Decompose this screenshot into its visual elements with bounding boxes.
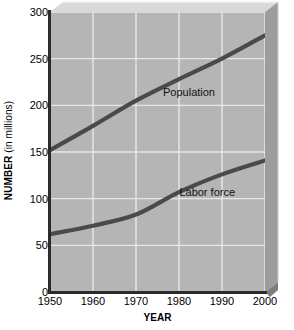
x-axis-ticks: 195019601970198019902000	[0, 0, 294, 330]
y-axis-title-bold: NUMBER	[4, 155, 15, 200]
y-axis-title-wrap: NUMBER (in millions)	[0, 0, 18, 300]
x-axis-title: YEAR	[50, 312, 265, 323]
x-tick-label-1990: 1990	[199, 296, 245, 307]
x-tick-label-1950: 1950	[27, 296, 73, 307]
x-tick-label-1980: 1980	[156, 296, 202, 307]
chart-figure: Population Labor force 05010015020025030…	[0, 0, 294, 330]
x-tick-label-1960: 1960	[70, 296, 116, 307]
x-tick-label-1970: 1970	[113, 296, 159, 307]
x-tick-label-2000: 2000	[242, 296, 288, 307]
y-axis-title-regular: (in millions)	[4, 100, 15, 155]
y-axis-title: NUMBER (in millions)	[4, 100, 15, 199]
